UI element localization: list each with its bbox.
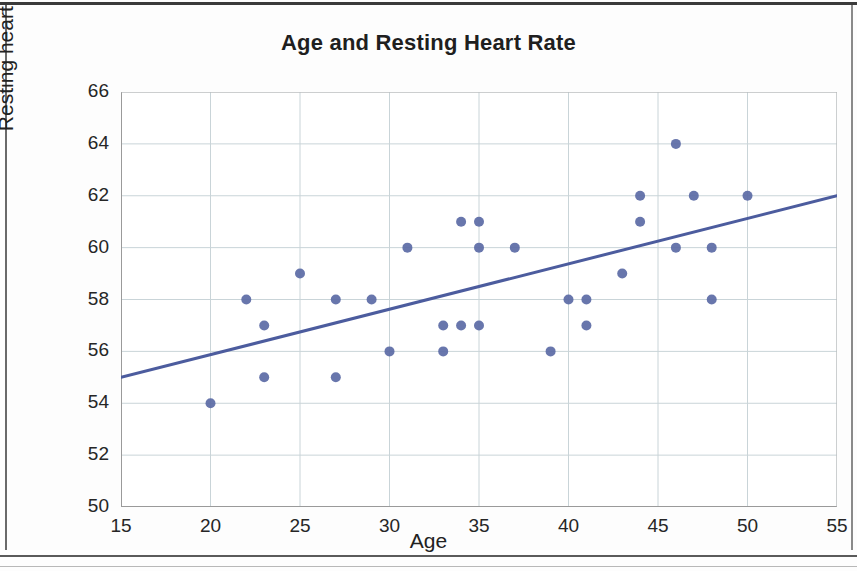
data-point <box>385 346 395 356</box>
data-point <box>510 243 520 253</box>
data-point <box>259 372 269 382</box>
data-point <box>635 191 645 201</box>
data-point <box>474 243 484 253</box>
page-frame-top-border <box>0 2 857 5</box>
y-axis-tick-label: 64 <box>65 132 109 154</box>
data-point <box>456 320 466 330</box>
y-axis-tick-label: 58 <box>65 288 109 310</box>
y-axis-tick-label: 56 <box>65 339 109 361</box>
data-point <box>438 346 448 356</box>
x-axis-tick-label: 25 <box>270 515 330 537</box>
y-axis-tick-label: 50 <box>65 495 109 517</box>
y-axis-tick-label: 52 <box>65 443 109 465</box>
data-point <box>367 295 377 305</box>
data-point <box>241 295 251 305</box>
data-point <box>617 269 627 279</box>
x-axis-tick-label: 50 <box>718 515 778 537</box>
data-point <box>259 320 269 330</box>
data-point <box>206 398 216 408</box>
page-frame-right-border <box>851 5 853 550</box>
data-point <box>671 243 681 253</box>
data-point <box>546 346 556 356</box>
y-axis-tick-label: 66 <box>65 80 109 102</box>
y-axis-tick-label: 60 <box>65 236 109 258</box>
x-axis-tick-label: 45 <box>628 515 688 537</box>
data-point <box>295 269 305 279</box>
data-point <box>689 191 699 201</box>
x-axis-tick-label: 35 <box>449 515 509 537</box>
x-axis-tick-label: 55 <box>807 515 857 537</box>
x-axis-tick-label: 15 <box>91 515 151 537</box>
page-frame-bottom-border <box>0 555 857 557</box>
data-point <box>331 295 341 305</box>
plot-area <box>121 92 837 507</box>
data-point <box>564 295 574 305</box>
data-point <box>402 243 412 253</box>
data-point <box>581 295 591 305</box>
data-point <box>707 295 717 305</box>
scatter-plot-svg <box>121 92 837 507</box>
x-axis-tick-label: 30 <box>360 515 420 537</box>
chart-page: Age and Resting Heart Rate Resting heart… <box>0 0 857 571</box>
data-point <box>474 217 484 227</box>
data-point <box>474 320 484 330</box>
data-point <box>635 217 645 227</box>
y-axis-tick-label: 62 <box>65 184 109 206</box>
y-axis-title: Resting heart rate (BPM) <box>0 0 18 175</box>
data-point <box>671 139 681 149</box>
data-point <box>581 320 591 330</box>
data-point <box>438 320 448 330</box>
data-point <box>331 372 341 382</box>
data-point <box>456 217 466 227</box>
x-axis-tick-label: 40 <box>539 515 599 537</box>
data-point <box>707 243 717 253</box>
chart-title: Age and Resting Heart Rate <box>0 30 857 56</box>
y-axis-tick-label: 54 <box>65 391 109 413</box>
x-axis-tick-label: 20 <box>181 515 241 537</box>
page-frame-bottom-border-secondary <box>0 566 857 567</box>
data-point <box>743 191 753 201</box>
